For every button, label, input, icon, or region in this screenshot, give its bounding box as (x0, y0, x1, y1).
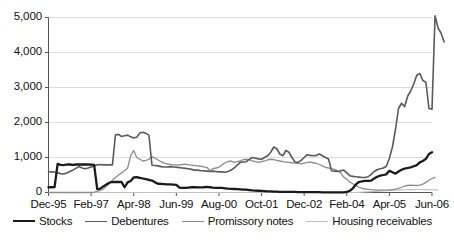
y-tick-label: 0 (0, 185, 42, 197)
chart-legend: StocksDebenturesPromissory notesHousing … (0, 211, 445, 231)
legend-label: Promissory notes (208, 215, 294, 227)
legend-line-swatch-icon (182, 221, 204, 222)
data-series (49, 16, 445, 193)
x-tick-label: Jun-06 (402, 198, 454, 210)
legend-item-stocks[interactable]: Stocks (13, 215, 72, 227)
legend-line-swatch-icon (306, 221, 328, 222)
gridlines (49, 18, 433, 193)
series-line-debentures (49, 16, 445, 178)
legend-line-swatch-icon (13, 220, 35, 222)
legend-item-housing-receivables[interactable]: Housing receivables (306, 215, 432, 227)
legend-item-promissory-notes[interactable]: Promissory notes (182, 215, 294, 227)
legend-item-debentures[interactable]: Debentures (85, 215, 168, 227)
series-line-promissory-notes (49, 151, 436, 193)
y-tick-label: 3,000 (0, 80, 42, 92)
legend-label: Stocks (39, 215, 72, 227)
y-tick-label: 1,000 (0, 150, 42, 162)
y-tick-label: 5,000 (0, 10, 42, 22)
legend-label: Housing receivables (332, 215, 432, 227)
y-tick-label: 4,000 (0, 45, 42, 57)
axis-lines (45, 18, 49, 193)
legend-line-swatch-icon (85, 221, 107, 222)
legend-label: Debentures (111, 215, 168, 227)
y-tick-label: 2,000 (0, 115, 42, 127)
